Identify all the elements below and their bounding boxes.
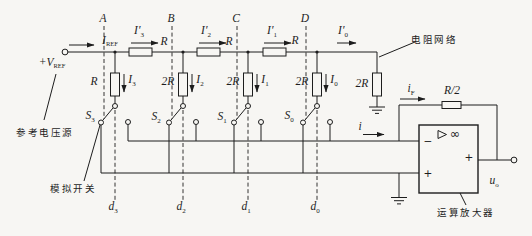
feedback-resistor-value: R/2 (444, 85, 460, 97)
switch-label-s1: S1 (217, 111, 226, 125)
vref-terminal (62, 49, 68, 55)
switch-label-s2: S2 (151, 111, 160, 125)
switch-arm-s2 (171, 108, 181, 120)
opamp-gain-label: ∞ (450, 128, 460, 141)
switch-pole-s1 (246, 104, 251, 109)
series-resistor-value-1: R (160, 36, 167, 48)
leader-resistor-network (379, 42, 415, 57)
opamp-output-sign: + (465, 152, 474, 163)
node-label-b: B (167, 13, 174, 25)
r2r-dac-circuit-diagram: +VREF 参考电压源 IREF A B C D I′3 I′2 I′1 I′0… (0, 0, 532, 236)
shunt-value-bit2: 2R (162, 76, 175, 88)
leader-analog-switch (84, 125, 100, 181)
node-label-d: D (301, 13, 309, 25)
switch-arm-s3 (103, 108, 113, 120)
iref-current-label: IREF (102, 35, 118, 48)
bit-label-d2: d2 (176, 201, 185, 215)
opamp-inverting-sign: − (424, 136, 433, 147)
output-terminal (511, 157, 517, 163)
switch-contact-right-s1 (259, 120, 264, 125)
ground-symbol-terminator (369, 107, 385, 113)
series-current-i3: I′3 (134, 25, 144, 39)
shunt-branch-bit0 (301, 52, 333, 173)
series-current-i1: I′1 (267, 25, 277, 39)
switch-label-s3: S3 (85, 110, 94, 124)
switch-contact-left-s1 (232, 120, 237, 125)
opamp-input-ground (391, 173, 407, 204)
leader-opamp (460, 193, 466, 205)
resistor-network-caption: 电阻网络 (411, 35, 457, 45)
switch-contact-left-s2 (167, 120, 172, 125)
series-resistor-value-3: R (291, 35, 298, 47)
switch-label-s0: S0 (284, 110, 293, 124)
switch-arm-s1 (236, 108, 246, 120)
shunt-value-bit0: 2R (296, 76, 309, 88)
switch-contact-right-s0 (328, 120, 333, 125)
vref-label: +VREF (39, 57, 66, 70)
shunt-current-i2: I2 (196, 74, 203, 88)
bit-label-d0: d0 (310, 201, 319, 215)
output-voltage-label: uo (489, 175, 498, 189)
shunt-branch-bit1 (232, 52, 264, 173)
feedback-resistor (442, 102, 461, 109)
analog-switch-caption: 模拟开关 (50, 184, 96, 194)
switch-pole-s0 (315, 104, 320, 109)
switch-arm-s0 (305, 108, 315, 120)
reference-source-caption: 参考电压源 (16, 128, 74, 138)
series-resistor-value-2: R (225, 36, 232, 48)
shunt-branch-bit3 (99, 52, 131, 173)
node-label-a: A (99, 13, 106, 25)
leader-reference-source (44, 74, 56, 120)
shunt-branch-bit2 (167, 52, 199, 173)
switch-pole-s2 (181, 104, 186, 109)
switch-contact-left-s0 (301, 120, 306, 125)
switch-contact-right-s2 (194, 120, 199, 125)
shunt-value-bit1: 2R (227, 76, 240, 88)
shunt-current-i1: I1 (261, 74, 268, 88)
series-current-i0: I′0 (338, 25, 348, 39)
shunt-value-bit3: R (90, 76, 97, 88)
bit-label-d3: d3 (108, 201, 117, 215)
switch-pole-s3 (113, 104, 118, 109)
feedback-current-label: iF (407, 83, 414, 97)
terminator-resistor (369, 52, 385, 113)
terminator-value: 2R (356, 78, 369, 90)
opamp-caption: 运算放大器 (437, 208, 495, 218)
summing-current-label: i (358, 121, 361, 133)
opamp-noninverting-sign: + (424, 168, 433, 179)
shunt-current-i3: I3 (128, 74, 135, 88)
node-label-c: C (232, 13, 240, 25)
node-dashed-lines (104, 26, 306, 119)
series-current-i2: I′2 (201, 25, 211, 39)
shunt-current-i0: I0 (330, 74, 337, 88)
switch-contact-right-s3 (126, 120, 131, 125)
bit-label-d1: d1 (241, 201, 250, 215)
switch-contact-left-s3 (99, 120, 104, 125)
